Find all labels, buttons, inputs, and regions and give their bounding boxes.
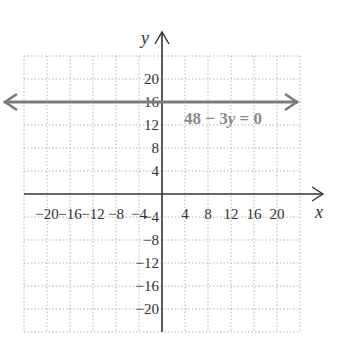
y-tick-label: 20 (144, 71, 159, 87)
coordinate-plane: xy−20−16−12−8−44812162020161284−4−8−12−1… (0, 0, 339, 362)
x-tick-label: −20 (35, 206, 58, 222)
y-tick-label: 4 (152, 163, 160, 179)
x-axis-label: x (314, 202, 323, 222)
y-tick-label: −16 (136, 278, 160, 294)
x-tick-label: −16 (58, 206, 82, 222)
x-tick-label: 12 (224, 206, 239, 222)
x-tick-label: −8 (108, 206, 124, 222)
y-tick-label: −8 (143, 232, 159, 248)
x-tick-label: −12 (81, 206, 104, 222)
x-tick-label: 16 (247, 206, 263, 222)
equation-label: 48 − 3y = 0 (184, 109, 262, 128)
y-tick-label: −20 (136, 301, 159, 317)
x-tick-label: 8 (204, 206, 212, 222)
x-tick-label: 20 (270, 206, 285, 222)
y-tick-label: 12 (144, 117, 159, 133)
y-tick-label: 8 (152, 140, 160, 156)
y-tick-label: −4 (143, 209, 159, 225)
y-tick-label: −12 (136, 255, 159, 271)
x-tick-label: 4 (181, 206, 189, 222)
y-axis-label: y (139, 28, 149, 48)
